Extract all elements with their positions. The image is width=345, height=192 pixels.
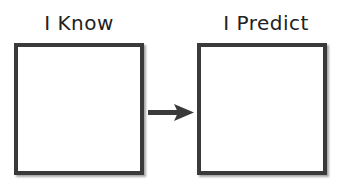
i-know-label: I Know — [14, 11, 144, 35]
i-know-box[interactable] — [14, 43, 144, 175]
i-predict-label: I Predict — [196, 11, 336, 35]
i-predict-box[interactable] — [197, 43, 327, 175]
arrow-right-icon — [148, 103, 196, 123]
